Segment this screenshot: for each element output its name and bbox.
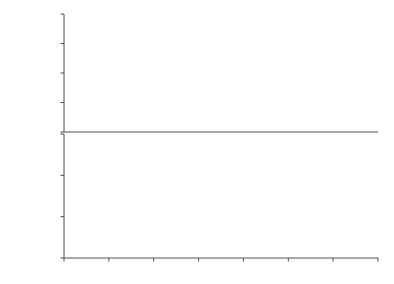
bottom-panel-axes xyxy=(61,134,379,262)
figure-container xyxy=(0,0,394,284)
top-panel-axes xyxy=(61,14,379,132)
two-panel-chart xyxy=(0,0,394,284)
